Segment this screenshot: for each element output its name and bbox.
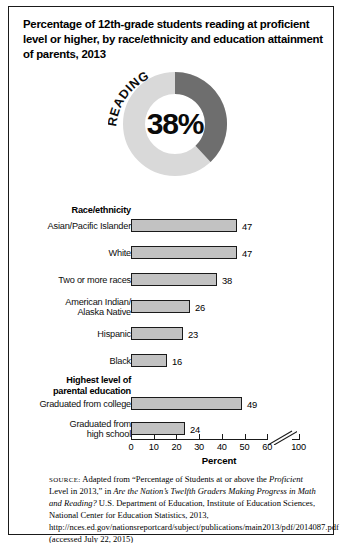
bar-graduated-from-college	[131, 397, 242, 410]
label-line-1: American Indian/	[65, 297, 131, 307]
bar-label-white: White	[15, 248, 131, 258]
x-tick-50	[245, 434, 246, 440]
bar-value-white: 47	[242, 248, 252, 259]
x-tick-10	[154, 434, 155, 440]
source-text-2: Level in 2013,” in	[49, 486, 113, 496]
bar-asian-pacific-islander	[131, 219, 237, 232]
x-tick-60	[267, 434, 268, 440]
figure-frame: Percentage of 12th-grade students readin…	[8, 6, 334, 535]
bar-label-american-indian-alaska-native: American Indian/ Alaska Native	[15, 297, 131, 318]
x-tick-100	[299, 434, 300, 440]
x-tick-label-10: 10	[144, 442, 164, 452]
group-heading-parental-education: Highest level of parental education	[25, 375, 131, 396]
label-line-2: Alaska Native	[77, 307, 131, 317]
bar-white	[131, 246, 237, 259]
x-tick-label-40: 40	[212, 442, 232, 452]
bar-label-asian-pacific-islander: Asian/Pacific Islander	[15, 221, 131, 231]
bar-value-two-or-more-races: 38	[222, 275, 232, 286]
x-tick-label-0: 0	[121, 442, 141, 452]
bar-label-two-or-more-races: Two or more races	[15, 275, 131, 285]
x-tick-30	[199, 434, 200, 440]
x-tick-0	[131, 434, 132, 440]
x-axis-title: Percent	[159, 455, 279, 466]
bar-hispanic	[131, 327, 183, 340]
label-line-2: high school	[87, 429, 131, 439]
reading-label: READING	[108, 69, 242, 139]
bar-label-black: Black	[15, 356, 131, 366]
bar-label-graduated-from-high-school: Graduated from high school	[15, 419, 131, 440]
source-note: SOURCE: Adapted from “Percentage of Stud…	[49, 473, 321, 543]
x-tick-label-60: 60	[257, 442, 277, 452]
bar-value-graduated-from-college: 49	[247, 399, 257, 410]
bar-black	[131, 354, 167, 367]
label-line-1: Graduated from	[69, 419, 131, 429]
x-tick-40	[222, 434, 223, 440]
bar-label-hispanic: Hispanic	[15, 329, 131, 339]
bar-value-american-indian-alaska-native: 26	[195, 302, 205, 313]
bar-label-graduated-from-college: Graduated from college	[15, 399, 131, 409]
x-tick-label-100: 100	[288, 442, 310, 452]
reading-label-text: READING	[108, 69, 152, 127]
bar-value-asian-pacific-islander: 47	[242, 221, 252, 232]
x-tick-label-30: 30	[189, 442, 209, 452]
bar-value-black: 16	[172, 356, 182, 367]
bar-two-or-more-races	[131, 273, 217, 286]
source-italic-1: Proficient	[269, 474, 303, 484]
x-tick-20	[176, 434, 177, 440]
heading-line-1: Highest level of	[66, 375, 131, 385]
page-title: Percentage of 12th-grade students readin…	[23, 17, 323, 62]
source-text-1: Adapted from “Percentage of Students at …	[81, 474, 269, 484]
bar-american-indian-alaska-native	[131, 300, 190, 313]
x-tick-label-20: 20	[166, 442, 186, 452]
heading-line-2: parental education	[53, 386, 131, 396]
group-heading-race: Race/ethnicity	[25, 205, 131, 216]
source-prefix: SOURCE:	[49, 476, 81, 483]
bar-chart: Race/ethnicity Asian/Pacific Islander 47…	[9, 203, 335, 453]
donut-chart: 38% READING	[9, 69, 335, 201]
bar-value-hispanic: 23	[188, 329, 198, 340]
x-tick-label-50: 50	[235, 442, 255, 452]
